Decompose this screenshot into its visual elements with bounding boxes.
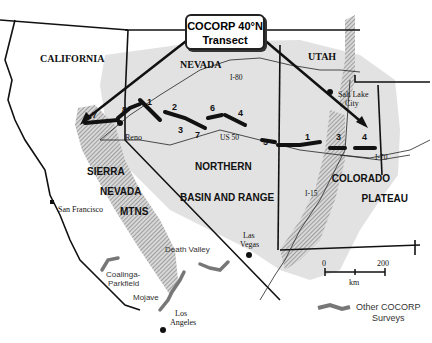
label-utah: UTAH (308, 51, 336, 62)
label-death-valley: Death Valley (165, 245, 210, 254)
scale-max: 200 (377, 259, 389, 268)
seg-label-7a: 7 (92, 110, 97, 120)
scale-min: 0 (322, 259, 326, 268)
legend-line1: Other COCORP (356, 302, 421, 312)
label-slc-2: City (345, 99, 359, 108)
city-dot-lv (246, 252, 252, 258)
label-i70: I-70 (375, 153, 388, 162)
label-lv-1: Las (243, 231, 255, 240)
seg-label-1b: 1 (305, 132, 310, 142)
title-line1: COCORP 40°N (187, 19, 263, 33)
seg-label-7b: 7 (195, 130, 200, 140)
label-northern: NORTHERN (195, 161, 252, 172)
seg-label-5: 5 (263, 137, 268, 147)
seg-label-4a: 4 (238, 108, 243, 118)
seg-label-4b: 4 (362, 132, 367, 142)
city-dot-la (160, 327, 166, 333)
survey-death-valley (200, 262, 228, 270)
map-canvas: CALIFORNIA NEVADA UTAH Reno Salt Lake Ci… (0, 0, 432, 343)
label-nevada: NEVADA (180, 59, 222, 70)
seg-label-3a: 3 (178, 125, 183, 135)
label-i80: I-80 (230, 73, 243, 82)
label-la-2: Angeles (170, 318, 196, 327)
transect-title-box: COCORP 40°N Transect (185, 14, 265, 50)
label-i15: I-15 (305, 189, 318, 198)
label-reno: Reno (125, 133, 142, 142)
city-dot-slc (327, 89, 333, 95)
label-us50: US 50 (220, 133, 239, 142)
city-dot-reno (117, 120, 123, 126)
legend-line2: Surveys (372, 313, 405, 323)
label-colorado: COLORADO (332, 173, 391, 184)
label-sf: San Francisco (58, 205, 103, 214)
label-coalinga: Coalinga- (106, 270, 141, 279)
label-california: CALIFORNIA (40, 53, 105, 64)
seg-label-8: 8 (122, 105, 127, 115)
label-mojave: Mojave (133, 293, 159, 302)
label-mtns: MTNS (120, 206, 149, 217)
label-nevada-mtns: NEVADA (100, 186, 141, 197)
city-dot-sf (50, 200, 54, 204)
survey-coalinga (102, 258, 118, 270)
seg-label-3b: 3 (336, 132, 341, 142)
seg-label-1a: 1 (147, 97, 152, 107)
seg-label-6: 6 (210, 103, 215, 113)
label-la-1: Los (175, 309, 187, 318)
label-parkfield: Parkfield (108, 279, 139, 288)
label-lv-2: Vegas (240, 240, 259, 249)
scale-unit: km (349, 278, 360, 287)
label-plateau: PLATEAU (362, 193, 408, 204)
label-slc-1: Salt Lake (338, 90, 369, 99)
title-line2: Transect (187, 33, 263, 47)
label-basin-range: BASIN AND RANGE (180, 192, 274, 203)
label-sierra: SIERRA (87, 166, 125, 177)
legend-swatch (318, 305, 350, 309)
seg-label-2: 2 (172, 102, 177, 112)
